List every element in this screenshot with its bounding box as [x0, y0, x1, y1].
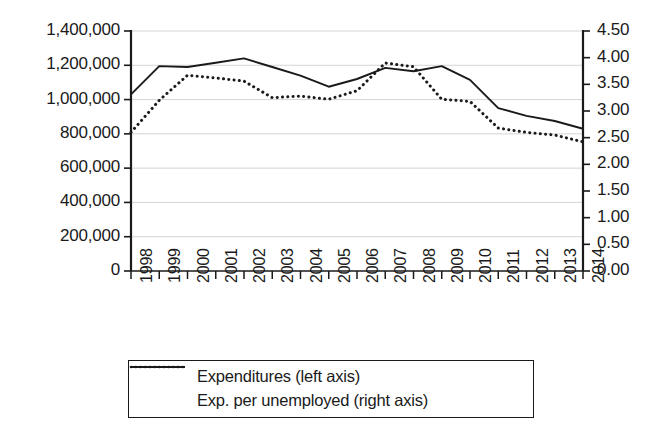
x-axis-tick-label: 1998: [138, 248, 156, 283]
chart-container: 1,400,0001,200,0001,000,000800,000600,00…: [0, 0, 658, 438]
right-axis-tick-label: 4.00: [597, 47, 629, 67]
right-axis-tick-label: 4.50: [597, 20, 629, 40]
series-line-2: [131, 63, 583, 142]
x-axis-tick-label: 2010: [477, 248, 495, 283]
left-axis-tick-label: 800,000: [60, 123, 120, 143]
x-axis-tick-label: 1999: [166, 248, 184, 283]
x-axis-tick-label: 2006: [364, 248, 382, 283]
x-axis-tick-label: 2008: [421, 248, 439, 283]
right-axis-tick-label: 2.00: [597, 153, 629, 173]
legend-item[interactable]: Exp. per unemployed (right axis): [135, 388, 525, 412]
x-axis-tick-label: 2014: [590, 248, 608, 283]
x-axis-tick-label: 2012: [534, 248, 552, 283]
right-axis-tick-label: 1.00: [597, 207, 629, 227]
x-axis-tick-label: 2004: [308, 248, 326, 283]
series-line-1: [131, 58, 583, 128]
x-axis-tick-label: 2000: [195, 248, 213, 283]
left-axis-tick-label: 1,200,000: [46, 54, 120, 74]
legend-item-label: Exp. per unemployed (right axis): [197, 391, 428, 410]
legend-item-label: Expenditures (left axis): [197, 367, 360, 386]
legend-item[interactable]: Expenditures (left axis): [135, 364, 525, 388]
right-axis-tick-label: 3.50: [597, 73, 629, 93]
left-axis-tick-label: 1,000,000: [46, 89, 120, 109]
left-axis-tick-label: 400,000: [60, 191, 120, 211]
x-axis-tick-label: 2013: [562, 248, 580, 283]
x-axis-tick-label: 2009: [449, 248, 467, 283]
left-axis-tick-label: 0: [111, 260, 120, 280]
x-axis-tick-label: 2007: [392, 248, 410, 283]
left-axis-tick-label: 1,400,000: [46, 20, 120, 40]
x-axis-tick-label: 2005: [336, 248, 354, 283]
chart-legend: Expenditures (left axis)Exp. per unemplo…: [128, 360, 534, 418]
right-axis-tick-label: 1.50: [597, 180, 629, 200]
x-axis-tick-label: 2002: [251, 248, 269, 283]
right-axis-tick-label: 3.00: [597, 100, 629, 120]
left-axis-tick-label: 600,000: [60, 157, 120, 177]
x-axis-tick-label: 2001: [223, 248, 241, 283]
x-axis-tick-label: 2003: [279, 248, 297, 283]
left-axis-tick-label: 200,000: [60, 226, 120, 246]
x-axis-tick-label: 2011: [505, 249, 523, 283]
right-axis-tick-label: 2.50: [597, 127, 629, 147]
